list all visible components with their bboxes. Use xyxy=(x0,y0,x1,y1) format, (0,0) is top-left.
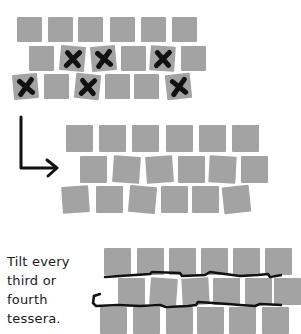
caption-line: Tilt every xyxy=(7,252,70,271)
caption-line: tessera. xyxy=(7,309,70,328)
caption-line: third or xyxy=(7,271,70,290)
caption-line: fourth xyxy=(7,290,70,309)
arrow-down-right-icon xyxy=(21,117,57,176)
flow-line xyxy=(93,272,282,307)
instruction-caption: Tilt every third or fourth tessera. xyxy=(7,252,70,328)
